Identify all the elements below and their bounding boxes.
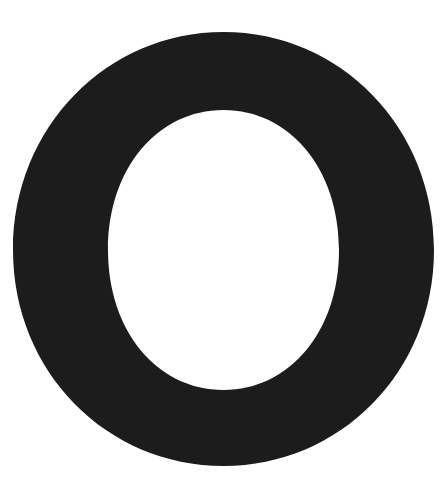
canvas: O <box>0 0 448 480</box>
letter-o-glyph <box>0 0 448 480</box>
letter-o-shape <box>13 32 434 466</box>
